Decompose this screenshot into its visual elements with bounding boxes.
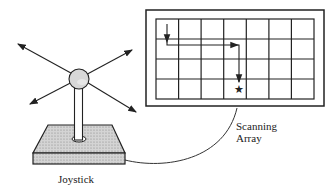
joystick-stick: [75, 86, 83, 140]
star-icon: ★: [234, 83, 244, 95]
joystick-label: Joystick: [58, 173, 94, 185]
scanning-array-label-line1: Scanning: [236, 120, 277, 132]
scanning-array-label-line2: Array: [236, 132, 262, 144]
scanning-array: ★: [146, 10, 324, 106]
diagram-canvas: ★: [0, 0, 328, 192]
joystick-ball: [69, 69, 89, 89]
joystick-base-front: [33, 153, 125, 164]
connecting-cable: [125, 108, 237, 163]
joystick: [18, 44, 136, 164]
